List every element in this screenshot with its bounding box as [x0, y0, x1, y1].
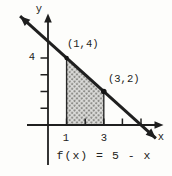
x-tick-label-3: 3 [101, 132, 107, 144]
shaded-region [67, 58, 104, 125]
point-label-1-4: (1,4) [67, 38, 99, 50]
graph-canvas: y x 4 1 3 (1,4) (3,2) f(x) = 5 - x [0, 0, 172, 176]
x-tick-label-1: 1 [63, 132, 69, 144]
function-graph-figure: y x 4 1 3 (1,4) (3,2) f(x) = 5 - x [0, 0, 172, 176]
point-3-2-dot [101, 89, 107, 95]
y-axis-label: y [36, 3, 42, 15]
function-formula: f(x) = 5 - x [57, 149, 152, 162]
x-axis-arrowhead [155, 121, 164, 129]
x-axis-label: x [158, 131, 164, 143]
y-axis-arrowhead [44, 14, 52, 23]
y-axis-ticks [41, 58, 49, 108]
y-tick-label-4: 4 [29, 51, 35, 63]
point-1-4-dot [64, 56, 68, 60]
point-label-3-2: (3,2) [108, 73, 140, 85]
